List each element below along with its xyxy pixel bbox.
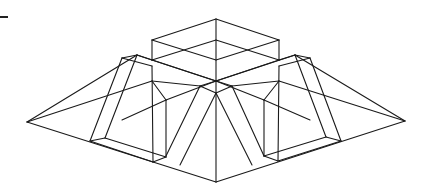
wire-segment [216,121,405,182]
wire-segment [264,81,279,100]
wire-segment [216,86,232,93]
wire-segment [137,55,216,81]
wire-segment [278,66,279,161]
wire-segment [153,157,166,162]
wire-segment [326,137,341,141]
wire-segment [264,137,326,156]
roof-wireframe-diagram [0,0,427,195]
wire-segment [166,81,216,100]
wire-segment [90,141,153,162]
wire-segment [295,55,326,137]
wire-segment [216,19,279,40]
wire-segment [278,141,341,161]
wire-segment [264,156,278,161]
wire-segment [295,55,405,121]
wire-segment [27,55,137,122]
wire-segment [105,55,137,138]
wire-segment [152,19,216,40]
wireframe-lines [0,0,427,195]
wire-segment [152,81,200,86]
wire-segment [152,66,153,162]
wire-segment [216,55,295,81]
wire-segment [264,100,310,120]
wire-segment [180,93,216,165]
wire-segment [200,86,216,93]
wire-segment [105,138,166,157]
wire-segment [216,93,252,165]
wire-segment [152,81,166,100]
wire-segment [122,100,166,120]
wire-segment [232,81,279,86]
corner-dash-mark [0,16,8,18]
wire-segment [27,81,152,122]
wire-segment [232,86,264,156]
wire-segment [90,138,105,141]
wire-segment [166,86,200,156]
